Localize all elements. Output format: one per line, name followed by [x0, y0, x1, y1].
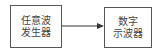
- digital-oscilloscope-node: 数字 示波器: [104, 7, 152, 48]
- arrow-head-icon: [97, 23, 104, 29]
- node-label-line: 数字: [118, 16, 138, 28]
- node-label-line: 示波器: [113, 28, 143, 40]
